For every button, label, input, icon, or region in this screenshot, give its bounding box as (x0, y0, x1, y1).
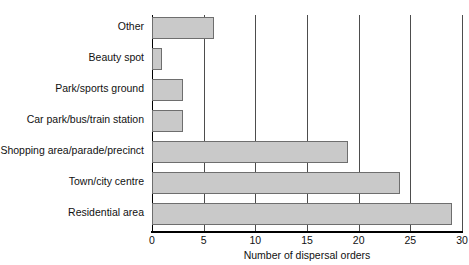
xtick-label: 5 (201, 234, 207, 247)
bar-park-sports-ground (152, 79, 183, 101)
category-label: Park/sports ground (55, 82, 144, 94)
category-axis: Other Beauty spot Park/sports ground Car… (0, 15, 148, 232)
bar-other (152, 17, 214, 39)
gridline-10 (255, 15, 256, 232)
gridline-5 (204, 15, 205, 232)
gridline-25 (410, 15, 411, 232)
xtick-label: 15 (301, 234, 313, 247)
plot-area (152, 15, 462, 232)
xtick-label: 30 (456, 234, 468, 247)
gridline-20 (359, 15, 360, 232)
bar-car-park-bus-train-station (152, 110, 183, 132)
category-label: Town/city centre (69, 175, 144, 187)
x-axis-title: Number of dispersal orders (152, 249, 462, 261)
gridline-15 (307, 15, 308, 232)
xtick-label: 10 (249, 234, 261, 247)
bar-shopping-area-parade-precinct (152, 141, 348, 163)
xtick-label: 0 (149, 234, 155, 247)
bar-residential-area (152, 203, 452, 225)
xtick-label: 25 (404, 234, 416, 247)
x-axis-line (151, 231, 463, 233)
bar-beauty-spot (152, 48, 162, 70)
xtick-label: 20 (353, 234, 365, 247)
category-label: Other (118, 20, 144, 32)
category-label: Shopping area/parade/precinct (0, 144, 144, 156)
x-axis-ticks: 0 5 10 15 20 25 30 (152, 234, 462, 248)
bar-town-city-centre (152, 172, 400, 194)
category-label: Beauty spot (89, 51, 144, 63)
category-label: Car park/bus/train station (27, 113, 144, 125)
bar-chart: Other Beauty spot Park/sports ground Car… (0, 0, 469, 265)
category-label: Residential area (68, 206, 144, 218)
gridline-30 (462, 15, 463, 232)
